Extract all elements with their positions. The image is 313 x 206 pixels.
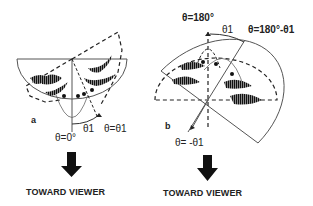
panel-b-dot-3 bbox=[230, 72, 234, 76]
panel-a-rotated-axis bbox=[72, 59, 97, 116]
panel-a-blob-4 bbox=[84, 74, 116, 86]
panel-a-blob-3 bbox=[88, 55, 112, 73]
panel-b-theta-negative-label: θ= -θ1 bbox=[175, 138, 204, 148]
panel-b-theta-180-label: θ=180° bbox=[182, 13, 214, 23]
panel-b-dot-1 bbox=[201, 60, 205, 64]
panel-a-label: a bbox=[31, 116, 36, 125]
panel-a-dot-2 bbox=[76, 94, 80, 98]
panel-b-theta-rotated-label: θ=180°-θ1 bbox=[248, 25, 294, 35]
panel-a-dot-1 bbox=[62, 94, 66, 98]
panel-a-figure bbox=[17, 32, 127, 177]
panel-b-blob-4 bbox=[230, 94, 262, 105]
panel-b-theta1-arc-label: θ1 bbox=[222, 25, 233, 35]
panel-b-negative-arrowhead bbox=[190, 125, 195, 130]
panel-a-theta-rotated-label: θ=θ1 bbox=[104, 124, 127, 134]
panel-b-negative-axis bbox=[192, 100, 208, 128]
panel-a-dot-4 bbox=[90, 88, 94, 92]
panel-a-theta1-arc-label: θ1 bbox=[83, 124, 94, 134]
panel-b-blob-2 bbox=[172, 76, 200, 84]
panel-a-theta-zero-label: θ=0° bbox=[55, 133, 76, 143]
panel-b-label: b bbox=[165, 122, 171, 131]
panel-b-dot-2 bbox=[214, 62, 218, 66]
panel-b-solid-rotated-semicircle bbox=[161, 39, 284, 143]
panel-a-dot-3 bbox=[82, 92, 86, 96]
panel-a-toward-viewer-caption: TOWARD VIEWER bbox=[26, 188, 105, 197]
panel-b-blob-3 bbox=[224, 80, 252, 89]
panel-b-toward-viewer-caption: TOWARD VIEWER bbox=[163, 189, 242, 198]
panel-b-down-arrow bbox=[197, 155, 218, 181]
panel-a-down-arrow bbox=[61, 152, 82, 177]
panel-b-figure bbox=[155, 32, 284, 181]
panel-b-blob-1 bbox=[180, 62, 205, 70]
